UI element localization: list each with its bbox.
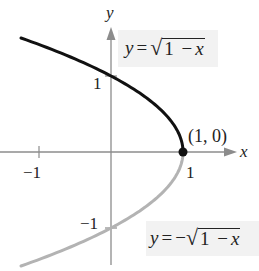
y-axis-arrow-icon bbox=[107, 27, 116, 40]
sqrt-icon: √ bbox=[150, 37, 162, 59]
eq-sign: = bbox=[136, 37, 147, 59]
sqrt-icon: √ bbox=[186, 227, 198, 249]
radicand: 1 −x bbox=[162, 38, 204, 59]
point-label: (1, 0) bbox=[188, 127, 227, 145]
y-tick-label-neg1: −1 bbox=[80, 215, 98, 232]
eq-negation: − bbox=[175, 227, 186, 249]
radicand-var: x bbox=[231, 228, 239, 249]
radicand: 1 −x bbox=[198, 228, 240, 249]
lower-equation: y = − √ 1 −x bbox=[150, 227, 240, 249]
y-axis-label: y bbox=[106, 4, 114, 21]
sqrt-radical: √ 1 −x bbox=[150, 37, 204, 59]
radicand-num: 1 bbox=[164, 38, 174, 59]
y-tick-label-1: 1 bbox=[93, 75, 102, 92]
eq-lhs: y bbox=[150, 227, 158, 249]
x-axis-arrow-icon bbox=[224, 148, 237, 157]
radicand-var: x bbox=[195, 38, 203, 59]
x-axis-label: x bbox=[240, 143, 248, 160]
vertex-point bbox=[179, 148, 188, 157]
radicand-num: 1 bbox=[200, 228, 210, 249]
sqrt-radical: √ 1 −x bbox=[186, 227, 240, 249]
x-tick-label-1: 1 bbox=[186, 164, 195, 181]
upper-equation: y = √ 1 −x bbox=[125, 37, 205, 59]
radicand-op: − bbox=[181, 38, 192, 59]
x-tick-label-neg1: −1 bbox=[23, 164, 41, 181]
eq-lhs: y bbox=[125, 37, 133, 59]
eq-sign: = bbox=[161, 227, 172, 249]
radicand-op: − bbox=[217, 228, 228, 249]
